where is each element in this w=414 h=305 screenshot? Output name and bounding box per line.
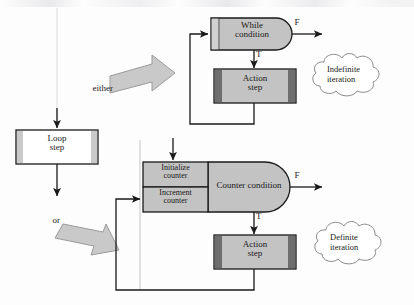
or-label: or (36, 216, 60, 225)
indefinite-cloud-label: Indefiniteiteration (327, 64, 385, 84)
while-false-label: F (291, 18, 303, 27)
either-block-arrow (110, 55, 175, 93)
counter-false-label: F (291, 171, 303, 180)
loop-step-label: Loopstep (16, 134, 98, 153)
initialize-counter-label: Initializecounter (143, 164, 208, 181)
while-condition-label: Whilecondition (219, 21, 285, 40)
either-label: either (73, 84, 113, 93)
while-action-step-label: Actionstep (222, 74, 288, 93)
counter-action-right-bar (288, 236, 295, 268)
definite-cloud-label: Definiteiteration (330, 232, 388, 252)
while-true-label: T (256, 50, 268, 59)
counter-true-label: T (256, 212, 268, 221)
counter-condition-label: Counter condition (208, 181, 290, 190)
increment-counter-label: Incrementcounter (143, 189, 208, 206)
while-action-right-bar (288, 70, 295, 102)
counter-action-left-bar (215, 236, 222, 268)
while-action-left-bar (215, 70, 222, 102)
or-block-arrow (55, 224, 119, 255)
diagram-canvas: Loopstep either or Whilecondition F T Ac… (0, 0, 414, 305)
counter-action-step-label: Actionstep (222, 240, 288, 259)
while-condition-left-bar (212, 19, 218, 50)
